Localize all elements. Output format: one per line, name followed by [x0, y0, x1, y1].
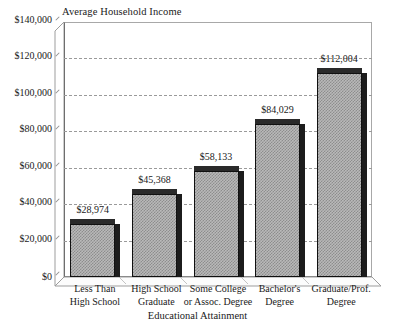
bar-side-face [362, 73, 367, 277]
bar-value-label: $58,133 [200, 151, 233, 162]
bar-value-label: $45,368 [138, 174, 171, 185]
bar-value-label: $112,004 [321, 53, 358, 64]
bar-chart: Average Household Income $0$20,000$40,00… [0, 0, 395, 327]
bar-group[interactable]: $45,368 [132, 194, 177, 277]
bars-layer: $28,974$45,368$58,133$84,029$112,004 [0, 0, 395, 327]
x-axis-category-label: Graduate/Prof. Degree [304, 283, 378, 308]
bar-side-face [300, 124, 305, 277]
bar-group[interactable]: $28,974 [70, 224, 115, 277]
bar-side-face [115, 224, 120, 277]
bar[interactable] [255, 124, 300, 277]
bar-group[interactable]: $84,029 [255, 124, 300, 277]
bar[interactable] [132, 194, 177, 277]
bar-side-face [177, 194, 182, 277]
bar-value-label: $28,974 [77, 204, 110, 215]
bar[interactable] [317, 73, 362, 277]
bar-side-face [239, 171, 244, 277]
bar-group[interactable]: $112,004 [317, 73, 362, 277]
bar[interactable] [70, 224, 115, 277]
x-axis-title: Educational Attainment [0, 310, 395, 321]
bar[interactable] [194, 171, 239, 277]
bar-value-label: $84,029 [261, 104, 294, 115]
bar-group[interactable]: $58,133 [194, 171, 239, 277]
